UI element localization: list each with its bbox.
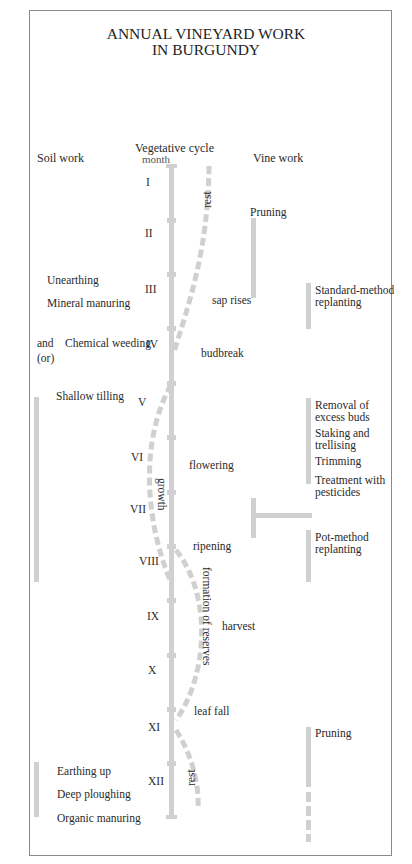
sap-rises-label: sap rises xyxy=(212,294,251,306)
vine-pruning-top: Pruning xyxy=(250,206,286,218)
soil-unearthing: Unearthing xyxy=(47,274,99,286)
vine-pot-method-1: Pot-method xyxy=(315,531,369,543)
leaf-fall-label: leaf fall xyxy=(194,705,229,717)
vine-removal-2: excess buds xyxy=(315,411,370,423)
soil-mineral-manuring: Mineral manuring xyxy=(47,297,130,309)
vine-pot-method-2: replanting xyxy=(315,543,362,555)
ripening-label: ripening xyxy=(193,540,231,552)
soil-organic-manuring: Organic manuring xyxy=(57,812,141,824)
vine-removal-1: Removal of xyxy=(315,399,369,411)
growth-label: growth xyxy=(156,478,168,511)
vine-staking-2: trellising xyxy=(315,439,356,451)
budbreak-label: budbreak xyxy=(201,347,244,359)
soil-chemical-weeding: Chemical weeding xyxy=(65,337,151,349)
vine-standard-method-2: replanting xyxy=(315,296,362,308)
soil-shallow-tilling: Shallow tilling xyxy=(56,390,124,402)
rest-label-top: rest xyxy=(201,191,213,208)
harvest-label: harvest xyxy=(222,620,255,632)
vine-standard-method-1: Standard-method xyxy=(315,284,394,296)
rest-label-bottom: rest xyxy=(185,769,197,786)
soil-deep-ploughing: Deep ploughing xyxy=(57,788,131,800)
vine-treatment-2: pesticides xyxy=(315,486,360,498)
flowering-label: flowering xyxy=(189,459,234,471)
formation-of-reserves-label: formation of reserves xyxy=(201,567,213,665)
vine-trimming: Trimming xyxy=(315,455,361,467)
vine-staking-1: Staking and xyxy=(315,427,370,439)
vine-pruning-bottom: Pruning xyxy=(315,727,351,739)
soil-and: and xyxy=(37,337,54,349)
soil-earthing-up: Earthing up xyxy=(57,765,111,777)
soil-or: (or) xyxy=(37,352,54,364)
vine-treatment-1: Treatment with xyxy=(315,474,385,486)
